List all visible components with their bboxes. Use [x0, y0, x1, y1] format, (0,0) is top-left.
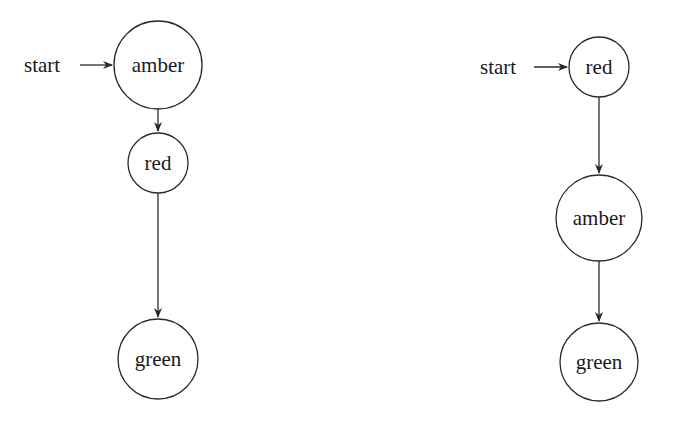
- state-amber: amber: [556, 175, 642, 261]
- state-label: red: [586, 55, 613, 79]
- state-amber: amber: [114, 21, 202, 109]
- state-green: green: [560, 323, 638, 401]
- state-red: red: [128, 133, 188, 193]
- left-state-machine: start amber red green: [24, 21, 202, 399]
- state-green: green: [118, 319, 198, 399]
- diagram-canvas: start amber red green start red amber: [0, 0, 673, 432]
- state-label: amber: [573, 206, 625, 230]
- state-label: green: [576, 350, 623, 374]
- start-label: start: [24, 53, 60, 77]
- state-label: amber: [132, 53, 184, 77]
- state-label: red: [145, 151, 172, 175]
- state-label: green: [135, 347, 182, 371]
- state-red: red: [569, 37, 629, 97]
- start-label: start: [480, 55, 516, 79]
- right-state-machine: start red amber green: [480, 37, 642, 401]
